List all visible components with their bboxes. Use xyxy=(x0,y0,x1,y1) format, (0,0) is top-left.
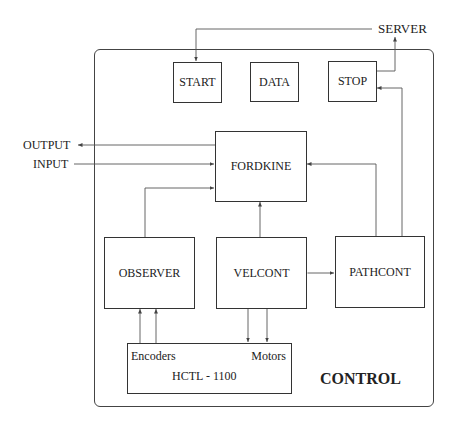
pathcont-label: PATHCONT xyxy=(349,265,411,280)
fordkine-label: FORDKINE xyxy=(231,159,292,174)
velcont-block: VELCONT xyxy=(216,237,307,309)
velcont-label: VELCONT xyxy=(234,266,290,281)
data-label: DATA xyxy=(259,75,290,90)
server-label: SERVER xyxy=(378,21,427,37)
start-block: START xyxy=(173,62,222,103)
stop-block: STOP xyxy=(328,61,377,102)
pathcont-block: PATHCONT xyxy=(335,236,425,308)
encoders-port-label: Encoders xyxy=(131,349,176,364)
start-label: START xyxy=(179,75,215,90)
observer-block: OBSERVER xyxy=(104,237,195,309)
stop-label: STOP xyxy=(338,74,367,89)
input-label: INPUT xyxy=(33,157,68,172)
hctl-title: HCTL - 1100 xyxy=(172,369,236,384)
output-label: OUTPUT xyxy=(23,138,70,153)
data-block: DATA xyxy=(250,62,299,102)
hctl-block: Encoders Motors HCTL - 1100 xyxy=(127,343,292,394)
observer-label: OBSERVER xyxy=(119,266,181,281)
motors-port-label: Motors xyxy=(251,349,286,364)
fordkine-block: FORDKINE xyxy=(215,131,307,202)
control-label: CONTROL xyxy=(320,370,401,388)
